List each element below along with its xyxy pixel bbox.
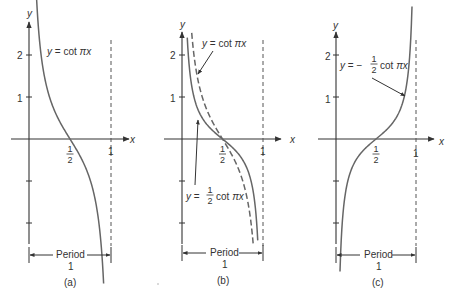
pointer-arrow <box>198 51 213 74</box>
svg-text:y =: y = <box>185 191 200 202</box>
x-axis-label-b: x <box>289 134 296 145</box>
equation-label-a: y = cot πx <box>46 46 92 57</box>
svg-text:y = cot πx: y = cot πx <box>201 38 247 49</box>
svg-text:2: 2 <box>373 155 378 165</box>
x-axis-label-a: x <box>129 134 136 145</box>
x-tick-label-half: 12 <box>373 144 380 165</box>
svg-text:2: 2 <box>67 155 72 165</box>
x-tick-label-half: 12 <box>219 144 226 165</box>
cot-curve <box>36 0 104 284</box>
fraction-half: 12 <box>207 185 214 206</box>
x-tick-label-half: 12 <box>67 144 74 165</box>
svg-text:1: 1 <box>207 185 212 195</box>
equation-label-b-cot: y = cot πx <box>198 38 247 74</box>
y-tick-label-1-c: 1 <box>325 94 331 105</box>
period-value-b: 1 <box>222 259 228 270</box>
y-tick-label-1-b: 1 <box>170 93 176 104</box>
svg-text:cot πx: cot πx <box>216 191 245 202</box>
pointer-arrow <box>195 120 198 185</box>
caption-b: (b) <box>217 275 229 286</box>
y-tick-label-2-b: 2 <box>170 50 176 61</box>
fraction-half: 12 <box>371 54 378 75</box>
x-axis-label-c: x <box>438 136 445 147</box>
panel-a: 12 <box>11 0 129 284</box>
svg-text:1: 1 <box>67 144 72 154</box>
y-tick-label-2-a: 2 <box>17 50 23 61</box>
svg-text:1: 1 <box>220 144 225 154</box>
period-label-b: Period <box>210 247 239 258</box>
stray-dot <box>157 283 159 285</box>
y-tick-label-1-a: 1 <box>17 93 23 104</box>
pointer-arrow <box>372 78 405 96</box>
x-tick-label-1-c: 1 <box>413 148 419 159</box>
period-value-c: 1 <box>376 261 382 272</box>
x-tick-label-1-b: 1 <box>260 146 266 157</box>
y-tick-label-2-c: 2 <box>325 51 331 62</box>
svg-text:1: 1 <box>371 54 376 64</box>
period-label-a: Period <box>56 249 85 260</box>
svg-text:y = −: y = − <box>339 60 362 71</box>
svg-text:1: 1 <box>373 144 378 154</box>
cotangent-graphs-figure: 12 12 12 y x 2 1 1 Period 1 (a) y x 2 1 … <box>0 0 453 297</box>
caption-a: (a) <box>64 277 76 288</box>
svg-text:2: 2 <box>220 155 225 165</box>
caption-c: (c) <box>372 277 384 288</box>
svg-text:cot πx: cot πx <box>380 60 409 71</box>
y-axis-label-a: y <box>26 8 33 19</box>
y-axis-label-b: y <box>179 19 186 30</box>
svg-text:2: 2 <box>207 196 212 206</box>
y-axis-label-c: y <box>332 20 339 31</box>
x-tick-label-1-a: 1 <box>108 146 114 157</box>
panel-c: 12 <box>318 6 434 271</box>
svg-text:y = cot πx: y = cot πx <box>46 46 92 57</box>
equation-label-c: y = −12cot πx <box>339 54 409 96</box>
period-value-a: 1 <box>68 261 74 272</box>
svg-text:2: 2 <box>371 65 376 75</box>
period-label-c: Period <box>364 249 393 260</box>
